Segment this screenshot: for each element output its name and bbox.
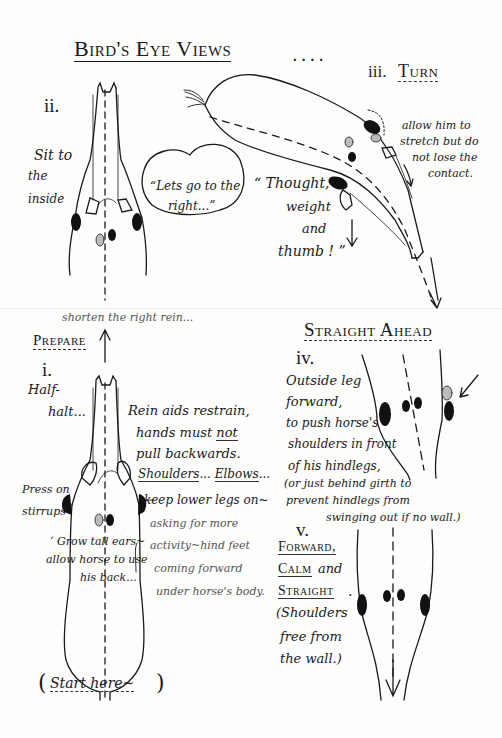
turn-note-1: allow him to — [402, 120, 471, 131]
v-note-1: (Shoulders — [276, 606, 348, 619]
turn-note-4: contact. — [428, 168, 473, 179]
v-forward: Forward, — [278, 540, 336, 555]
iv-note-1: Outside leg — [286, 374, 361, 387]
section-iii-heading: Turn — [398, 62, 438, 82]
horse-illustrations — [0, 0, 502, 738]
turn-quote-3: and — [302, 222, 326, 235]
iv-note-3: to push horse's — [286, 417, 378, 429]
legs-note-1: keep lower legs on~ — [144, 494, 269, 506]
shorten-rein-note: shorten the right rein... — [62, 312, 193, 323]
section-iv-numeral: iv. — [296, 348, 314, 367]
section-ii-note-1: Sit to — [34, 148, 72, 162]
rein-aids-1: Rein aids restrain, — [128, 404, 250, 417]
section-i-numeral: i. — [42, 360, 52, 379]
rein-aids-2a: hands must — [136, 425, 216, 440]
turn-quote-2: weight — [286, 200, 331, 213]
iv-note-4: shoulders in front — [288, 438, 397, 450]
start-open-paren: ( — [38, 672, 47, 694]
v-straight: Straight — [278, 584, 334, 599]
v-note-3: the wall.) — [280, 652, 342, 665]
diagram-page: Bird's Eye Views .... iii. Turn ii. Sit … — [0, 0, 502, 738]
half-halt-2: halt... — [48, 405, 86, 418]
v-calm: Calm — [278, 562, 312, 577]
iv-note-7: prevent hindlegs from — [286, 495, 410, 506]
rein-aids-not: not — [216, 425, 237, 441]
ellipsis-2: ... — [259, 467, 270, 481]
iv-note-8: swinging out if no wall.) — [326, 512, 461, 523]
iv-note-6: (or just behind girth to — [284, 478, 411, 489]
page-title: Bird's Eye Views — [74, 38, 231, 62]
title-dots: .... — [292, 46, 327, 64]
horse-v-drawing — [357, 528, 433, 700]
section-iii-numeral: iii. — [368, 63, 386, 80]
turn-quote-4: thumb ! ” — [278, 244, 346, 258]
legs-note-2: asking for more — [150, 518, 238, 529]
grow-tall-2: allow horse to use — [46, 554, 148, 565]
turn-note-3: not lose the — [412, 152, 477, 163]
iv-note-2: forward, — [286, 395, 342, 408]
rein-aids-3: pull backwards. — [136, 447, 241, 460]
iv-note-5: of his hindlegs, — [288, 460, 381, 472]
v-period: . — [348, 584, 352, 598]
v-and: and — [318, 562, 342, 575]
turn-quote-1: “ Thought, — [254, 176, 329, 190]
horse-ii-drawing — [69, 83, 146, 300]
start-close-paren: ) — [156, 672, 165, 694]
speech-line-2: right...” — [168, 200, 215, 212]
turn-note-2: stretch but do — [400, 136, 479, 147]
shoulders-word: Shoulders — [138, 467, 199, 482]
shoulders-elbows: Shoulders... Elbows... — [138, 468, 270, 480]
speech-line-1: “Lets go to the — [150, 180, 240, 192]
legs-note-4: coming forward — [154, 563, 243, 574]
grow-tall-1: ‘ Grow tall ears~ — [50, 536, 145, 547]
up-arrow — [100, 330, 110, 362]
legs-note-3: activity~hind feet — [150, 540, 250, 551]
section-v-numeral: v. — [296, 520, 309, 539]
grow-tall-3: his back... — [80, 572, 137, 583]
ellipsis-1: ... — [199, 467, 210, 481]
press-1: Press on — [22, 484, 70, 495]
v-note-2: free from — [280, 630, 342, 643]
elbows-word: Elbows — [215, 467, 259, 482]
section-ii-numeral: ii. — [44, 96, 59, 115]
press-2: stirrups — [22, 506, 66, 517]
half-halt-1: Half- — [28, 383, 60, 396]
section-ii-note-3: inside — [28, 193, 64, 205]
section-ii-note-2: the — [28, 170, 48, 182]
straight-ahead-heading: Straight Ahead — [304, 320, 432, 341]
prepare-heading: Prepare — [33, 333, 86, 350]
start-here: Start here~ — [50, 676, 134, 692]
rein-aids-2: hands must not — [136, 426, 238, 439]
legs-note-5: under horse's body. — [156, 586, 265, 597]
